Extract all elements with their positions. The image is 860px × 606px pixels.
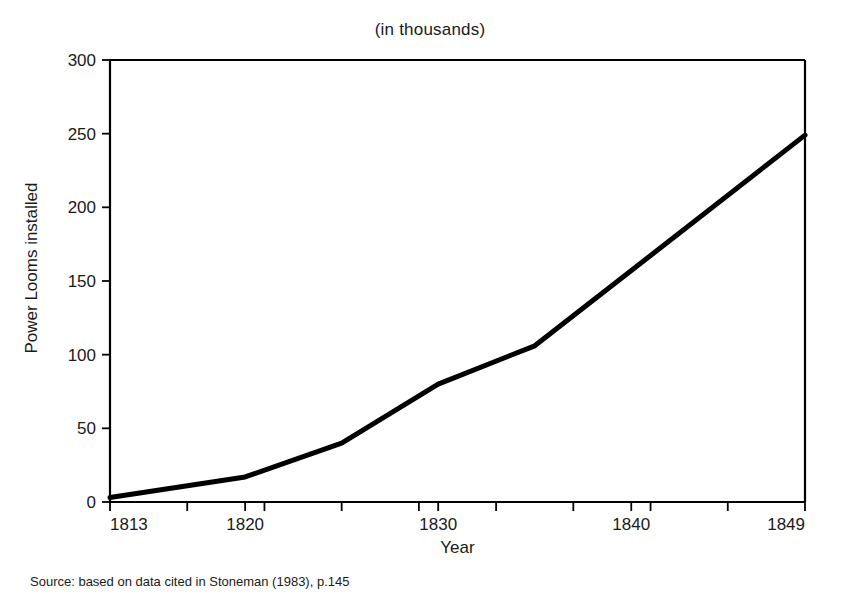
y-axis-ticks: 050100150200250300 [68,51,110,512]
y-tick-label: 300 [68,51,96,70]
x-axis-minor-ticks [187,502,728,511]
x-axis-ticks: 18131820183018401849 [110,502,805,534]
data-series-line [110,135,805,497]
x-tick-label: 1830 [419,515,457,534]
axis-frame [110,60,805,502]
y-tick-label: 50 [77,419,96,438]
x-tick-label: 1813 [110,515,148,534]
y-tick-label: 0 [87,493,96,512]
y-tick-label: 250 [68,125,96,144]
x-tick-label: 1820 [226,515,264,534]
plot-area: 050100150200250300 18131820183018401849 [0,0,860,606]
source-note: Source: based on data cited in Stoneman … [30,574,349,589]
y-tick-label: 200 [68,198,96,217]
x-tick-label: 1849 [767,515,805,534]
x-tick-label: 1840 [612,515,650,534]
y-tick-label: 100 [68,346,96,365]
y-tick-label: 150 [68,272,96,291]
chart-figure: (in thousands) Power Looms installed Yea… [0,0,860,606]
